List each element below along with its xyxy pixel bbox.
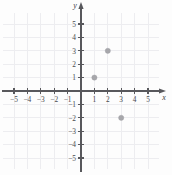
x-tick-label: 1 bbox=[93, 95, 97, 104]
x-tick-label: 3 bbox=[119, 95, 123, 104]
x-tick-label: 5 bbox=[146, 95, 150, 104]
x-tick-label: 4 bbox=[133, 95, 137, 104]
data-point: (1, 1) bbox=[92, 75, 97, 80]
x-tick-label: 2 bbox=[106, 95, 110, 104]
y-tick-label: 4 bbox=[72, 33, 76, 42]
y-tick-label: 2 bbox=[72, 60, 76, 69]
x-tick-label: −5 bbox=[10, 95, 18, 104]
y-tick-label: 1 bbox=[72, 73, 76, 82]
y-tick-label: −2 bbox=[68, 114, 76, 123]
graph-figure: −5−4−3−2−112345 −5−4−3−2−112345 x y (1, … bbox=[0, 0, 172, 175]
y-axis-arrow-icon bbox=[78, 2, 83, 9]
x-axis-tick-labels: −5−4−3−2−112345 bbox=[10, 95, 150, 104]
data-point: (2, 3) bbox=[105, 48, 110, 53]
x-tick-label: −4 bbox=[23, 95, 31, 104]
x-axis-label: x bbox=[161, 93, 166, 102]
axis-lines bbox=[2, 2, 166, 172]
y-tick-label: −3 bbox=[68, 127, 76, 136]
y-tick-label: 3 bbox=[72, 47, 76, 56]
y-axis-label: y bbox=[72, 1, 77, 10]
coordinate-plane: −5−4−3−2−112345 −5−4−3−2−112345 x y (1, … bbox=[0, 0, 172, 175]
y-tick-label: 5 bbox=[72, 20, 76, 29]
data-point: (3, -2) bbox=[119, 115, 124, 120]
x-tick-label: −2 bbox=[50, 95, 58, 104]
y-tick-label: −1 bbox=[68, 100, 76, 109]
y-tick-label: −4 bbox=[68, 140, 76, 149]
x-tick-label: −3 bbox=[37, 95, 45, 104]
y-tick-label: −5 bbox=[68, 154, 76, 163]
